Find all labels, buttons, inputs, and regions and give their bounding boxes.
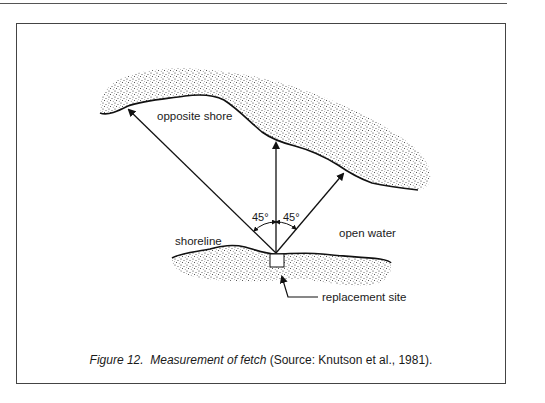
label-angle-right: 45° (283, 211, 300, 223)
label-replacement-site: replacement site (322, 291, 406, 303)
label-shoreline: shoreline (175, 235, 222, 247)
label-open-water: open water (339, 227, 396, 239)
angle-arcs (254, 222, 296, 231)
figure-caption: Figure 12. Measurement of fetch (Source:… (16, 353, 506, 367)
angle-arc-left (254, 222, 276, 231)
label-angle-left: 45° (252, 211, 269, 223)
caption-source: (Source: Knutson et al., 1981). (270, 353, 433, 367)
caption-title: Measurement of fetch (150, 353, 266, 367)
fetch-diagram: opposite shore open water shoreline repl… (0, 0, 545, 403)
label-opposite-shore: opposite shore (157, 110, 232, 122)
caption-figure-number: Figure 12. (90, 353, 144, 367)
fetch-arrow-left (129, 110, 276, 253)
replacement-site-marker (270, 254, 284, 267)
angle-arc-right (276, 222, 296, 229)
